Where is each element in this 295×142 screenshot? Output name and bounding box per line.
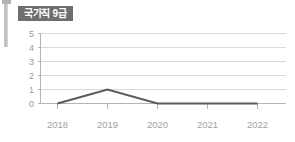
chart-svg: 5 4 3 2 1 0 2018 2019 2020 2021 2022 (0, 0, 295, 142)
y-axis-labels: 5 4 3 2 1 0 (29, 29, 34, 109)
y-tick-label-4: 4 (29, 43, 34, 53)
line-chart: 5 4 3 2 1 0 2018 2019 2020 2021 2022 (0, 0, 295, 142)
y-tick-label-2: 2 (29, 71, 34, 81)
y-tick-label-3: 3 (29, 57, 34, 67)
y-tick-label-0: 0 (29, 99, 34, 109)
x-tick-label-2020: 2020 (147, 119, 168, 130)
x-tick-label-2022: 2022 (247, 119, 268, 130)
chart-figure: 국가직 9급 (0, 0, 295, 142)
y-tick-label-1: 1 (29, 85, 34, 95)
data-series-line (58, 90, 258, 104)
gridlines (41, 34, 287, 90)
x-tick-label-2018: 2018 (47, 119, 68, 130)
x-tick-label-2019: 2019 (97, 119, 118, 130)
x-tick-label-2021: 2021 (197, 119, 218, 130)
y-tick-label-5: 5 (29, 29, 34, 39)
x-axis-labels: 2018 2019 2020 2021 2022 (47, 119, 268, 130)
